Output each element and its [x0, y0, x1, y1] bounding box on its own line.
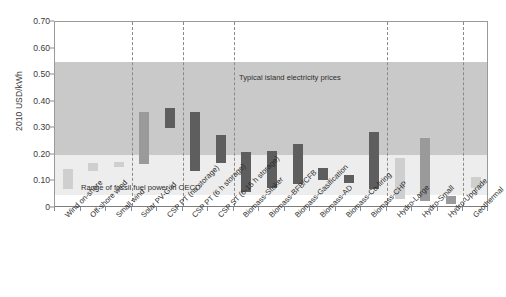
y-axis-tick-label: 0: [4, 202, 50, 212]
y-axis-ticks: 00.100.200.300.400.500.600.70: [0, 0, 50, 297]
y-axis-tick-label: 0.20: [4, 149, 50, 159]
x-axis-tick-mark: [54, 207, 55, 211]
y-axis-tick-label: 0.60: [4, 43, 50, 53]
x-axis-tick-mark: [156, 207, 157, 211]
y-axis-tick-label: 0.40: [4, 96, 50, 106]
bar-biomass-gasification: [293, 144, 303, 184]
bar-csp-st-6-15-h-storage: [216, 135, 226, 163]
x-axis-tick-mark: [284, 207, 285, 211]
bar-geothermal: [471, 177, 481, 188]
bar-solar-pv-grid: [139, 112, 149, 164]
x-axis-tick-mark: [182, 207, 183, 211]
x-axis-tick-mark: [258, 207, 259, 211]
band-label-island-prices: Typical island electricity prices: [239, 73, 341, 82]
y-axis-tick-label: 0.70: [4, 16, 50, 26]
x-axis-tick-mark: [335, 207, 336, 211]
x-axis-tick-mark: [80, 207, 81, 211]
y-axis-tick-label: 0.30: [4, 122, 50, 132]
bar-biomass-stoker: [241, 152, 251, 192]
group-divider: [463, 22, 464, 206]
bar-small-wind: [114, 162, 124, 167]
x-axis-tick-mark: [360, 207, 361, 211]
bar-biomass-ad: [318, 168, 328, 180]
bar-csp-pt-6-h-storage: [190, 112, 200, 170]
bar-biomass-co-firing: [344, 175, 354, 183]
group-divider: [387, 22, 388, 206]
x-axis-tick-mark: [207, 207, 208, 211]
bar-biomass-chp: [369, 132, 379, 189]
bar-biomass-bfb-cfb: [267, 151, 277, 188]
bar-hydro-small: [420, 138, 430, 202]
group-divider: [234, 22, 235, 206]
x-axis-tick-mark: [437, 207, 438, 211]
x-axis-tick-mark: [411, 207, 412, 211]
x-axis-tick-mark: [487, 207, 488, 211]
band-label-fossil-fuel-range: Range of fossil fuel power in OECD: [81, 183, 200, 192]
x-axis-tick-mark: [105, 207, 106, 211]
x-axis-tick-mark: [309, 207, 310, 211]
x-axis-tick-mark: [131, 207, 132, 211]
x-axis-tick-mark: [233, 207, 234, 211]
x-axis-ticks: [54, 207, 488, 212]
x-axis-tick-mark: [386, 207, 387, 211]
bar-hydro-large: [395, 158, 405, 199]
y-axis-tick-label: 0.10: [4, 175, 50, 185]
bar-wind-on-shore: [63, 169, 73, 189]
y-axis-tick-label: 0.50: [4, 69, 50, 79]
bar-csp-pt-no-storage: [165, 108, 175, 128]
plot-area: Typical island electricity pricesRange o…: [54, 21, 488, 207]
x-axis-tick-mark: [462, 207, 463, 211]
group-divider: [183, 22, 184, 206]
bar-off-shore-wind: [88, 163, 98, 171]
bar-hydro-upgrade: [446, 196, 456, 204]
group-divider: [132, 22, 133, 206]
